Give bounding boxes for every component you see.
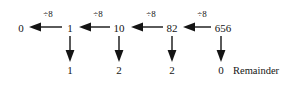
remainder-label: Remainder [233, 65, 279, 76]
quotient-value-4: 656 [210, 23, 236, 34]
operator-label-4: ÷8 [191, 10, 213, 19]
remainder-value-1: 1 [63, 65, 77, 76]
operator-label-3: ÷8 [140, 10, 162, 19]
leftward-arrow-icon-4 [183, 22, 212, 32]
quotient-value-2: 10 [110, 23, 128, 34]
division-chain-diagram: 0 1 10 82 656 ÷8 ÷8 ÷8 ÷8 [0, 0, 294, 85]
quotient-value-0: 0 [14, 23, 28, 34]
quotient-value-3: 82 [163, 23, 181, 34]
remainder-value-4: 0 [214, 65, 228, 76]
leftward-arrow-icon-3 [131, 22, 164, 32]
leftward-arrow-icon-2 [79, 22, 111, 32]
downward-arrow-icon-2 [114, 36, 124, 63]
quotient-value-1: 1 [63, 23, 77, 34]
downward-arrow-icon-4 [216, 36, 226, 63]
downward-arrow-icon-1 [65, 36, 75, 63]
operator-label-2: ÷8 [87, 10, 109, 19]
remainder-value-3: 2 [165, 65, 179, 76]
downward-arrow-icon-3 [167, 36, 177, 63]
operator-label-1: ÷8 [37, 10, 59, 19]
remainder-value-2: 2 [112, 65, 126, 76]
leftward-arrow-icon-1 [29, 22, 63, 32]
